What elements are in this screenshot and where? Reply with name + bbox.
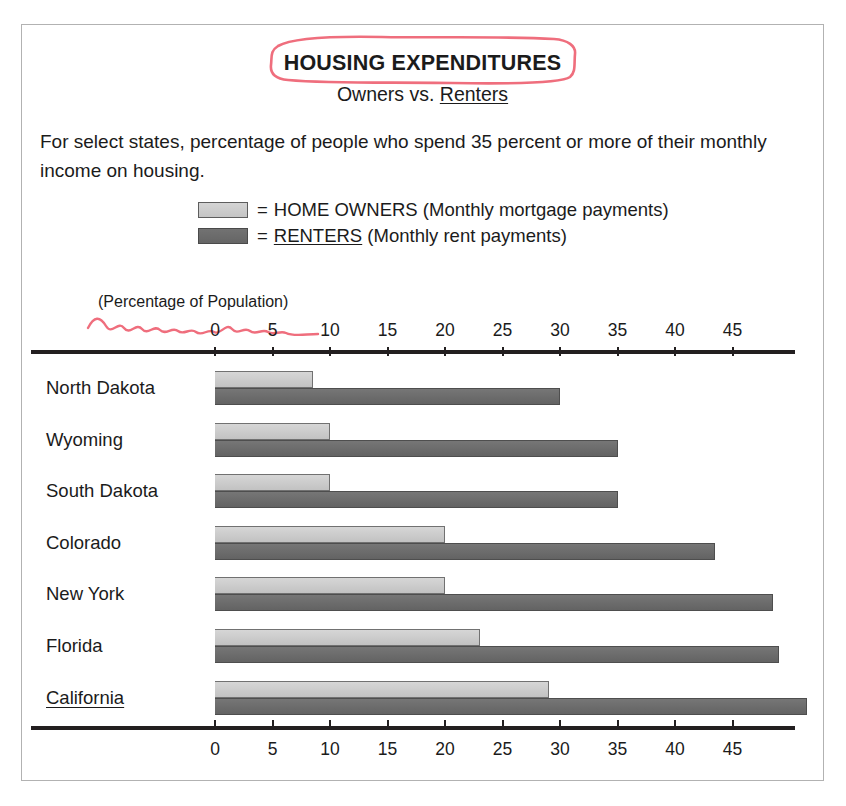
axis-tick [329, 347, 331, 356]
bar-row-label: New York [46, 583, 124, 605]
bar-row-label: Wyoming [46, 429, 123, 451]
bar-owners [215, 629, 480, 646]
bar-renters [215, 594, 773, 611]
bar-owners [215, 371, 313, 388]
axis-tick-label: 35 [598, 739, 638, 760]
axis-tick [732, 347, 734, 356]
plot-area: 051015202530354045 051015202530354045 No… [22, 25, 824, 781]
axis-tick-label: 40 [655, 739, 695, 760]
bar-row: North Dakota [22, 365, 824, 417]
bar-row: Florida [22, 623, 824, 675]
axis-tick [674, 347, 676, 356]
bar-row-label: South Dakota [46, 480, 158, 502]
axis-tick-label: 20 [425, 320, 465, 341]
bar-owners [215, 526, 445, 543]
axis-tick [559, 347, 561, 356]
axis-tick-label: 15 [368, 320, 408, 341]
bar-row-label: California [46, 687, 124, 709]
axis-tick [272, 347, 274, 356]
axis-tick [387, 347, 389, 356]
bar-row: South Dakota [22, 468, 824, 520]
chart-card: HOUSING EXPENDITURES Owners vs. Renters … [21, 24, 824, 781]
bar-row: Colorado [22, 520, 824, 572]
axis-tick-label: 5 [253, 320, 293, 341]
bar-owners [215, 474, 330, 491]
bar-row: California [22, 675, 824, 727]
axis-tick [214, 347, 216, 356]
axis-tick-label: 45 [713, 320, 753, 341]
axis-tick [444, 347, 446, 356]
bar-renters [215, 543, 715, 560]
axis-tick-label: 5 [253, 739, 293, 760]
axis-tick-label: 10 [310, 320, 350, 341]
axis-tick-label: 0 [195, 739, 235, 760]
bar-row: Wyoming [22, 417, 824, 469]
axis-line-top [31, 350, 795, 354]
axis-tick-label: 25 [483, 320, 523, 341]
axis-tick-label: 15 [368, 739, 408, 760]
bar-renters [215, 440, 618, 457]
bar-owners [215, 577, 445, 594]
bar-renters [215, 646, 779, 663]
axis-tick-label: 35 [598, 320, 638, 341]
bar-renters [215, 698, 807, 715]
axis-tick-label: 30 [540, 739, 580, 760]
axis-tick [617, 347, 619, 356]
axis-tick [502, 347, 504, 356]
axis-tick-label: 10 [310, 739, 350, 760]
bar-renters [215, 491, 618, 508]
axis-tick-label: 40 [655, 320, 695, 341]
bar-row: New York [22, 571, 824, 623]
bar-renters [215, 388, 560, 405]
axis-tick-label: 25 [483, 739, 523, 760]
axis-tick-label: 20 [425, 739, 465, 760]
bar-owners [215, 681, 549, 698]
bar-row-label: Florida [46, 635, 103, 657]
axis-tick-label: 30 [540, 320, 580, 341]
axis-tick-label: 0 [195, 320, 235, 341]
bar-owners [215, 423, 330, 440]
bar-row-label: North Dakota [46, 377, 155, 399]
axis-tick-label: 45 [713, 739, 753, 760]
bar-row-label: Colorado [46, 532, 121, 554]
